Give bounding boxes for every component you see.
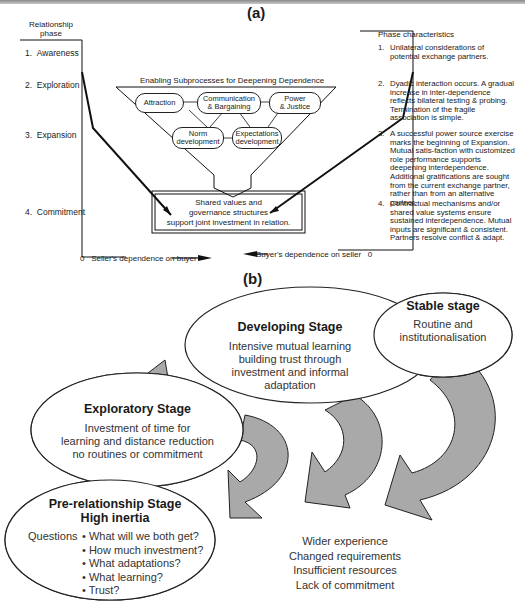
question-text: What adaptations? xyxy=(89,557,181,569)
stage-body: Intensive mutual learning building trust… xyxy=(195,340,385,392)
exit-reason: Lack of commitment xyxy=(280,578,410,593)
characteristic-num: 4. xyxy=(378,200,385,209)
question-item: • What learning? xyxy=(82,571,203,585)
stage-body-line: building trust through xyxy=(195,353,385,366)
axis-zero: 0 xyxy=(368,250,372,259)
right-header: Phase characteristics xyxy=(378,30,454,39)
stage-title: Developing Stage xyxy=(195,320,385,334)
characteristic-num: 1. xyxy=(378,44,385,53)
stage-title: Stable stage xyxy=(376,299,510,313)
question-item: • Trust? xyxy=(82,584,203,598)
shared-values-line: governance structures xyxy=(155,208,302,218)
panel-b-label: (b) xyxy=(243,270,262,287)
exit-reason: Wider experience xyxy=(280,534,410,549)
stage-title: Pre-relationship Stage xyxy=(40,497,190,511)
subprocess-power: Power& Justice xyxy=(269,92,321,114)
stage-body-line: investment and informal xyxy=(195,366,385,379)
subprocess-label: & Bargaining xyxy=(208,103,251,111)
characteristic-1: 1.Unilateral considerations of potential… xyxy=(390,44,515,61)
question-item: • What will we both get? xyxy=(82,530,203,544)
stage-body-line: Investment of time for xyxy=(50,422,225,435)
subprocess-label: & Justice xyxy=(280,103,310,111)
phase-2: 2. Exploration xyxy=(25,80,79,90)
subprocess-label: development xyxy=(177,138,220,146)
question-text: Trust? xyxy=(89,584,120,596)
subprocesses-title: Enabling Subprocesses for Deepening Depe… xyxy=(140,76,324,85)
exit-reason: Insufficient resources xyxy=(280,563,410,578)
axis-zero: 0 xyxy=(80,254,84,263)
exit-reason: Changed requirements xyxy=(280,549,410,564)
phase-num: 2. xyxy=(25,80,32,90)
characteristic-text: A successful power source exercise marks… xyxy=(390,129,515,207)
x-axis-left: 0 Seller's dependence on buyer xyxy=(80,254,197,263)
subprocess-label: Attraction xyxy=(144,99,176,107)
question-item: • What adaptations? xyxy=(82,557,203,571)
stage-body-line: learning and distance reduction xyxy=(50,435,225,448)
axis-label: Buyer's dependence on seller xyxy=(256,250,361,259)
phase-3: 3. Expansion xyxy=(25,130,77,140)
stage-body: Routine and institutionalisation xyxy=(376,318,510,344)
question-text: What will we both get? xyxy=(89,530,199,542)
phase-num: 4. xyxy=(25,207,32,217)
left-header: Relationship phase xyxy=(26,20,76,38)
exit-reasons: Wider experience Changed requirements In… xyxy=(280,534,410,592)
shared-values-line: support joint investment in relation. xyxy=(155,218,302,228)
shared-values-text: Shared values and governance structures … xyxy=(155,198,302,228)
phase-name: Expansion xyxy=(37,130,77,140)
subprocess-communication: Communication& Bargaining xyxy=(197,92,261,114)
axis-label: Seller's dependence on buyer xyxy=(91,254,197,263)
panel-a-label: (a) xyxy=(247,4,265,21)
phase-num: 3. xyxy=(25,130,32,140)
x-axis-right: Buyer's dependence on seller 0 xyxy=(256,250,372,259)
subprocess-expectations: Expectationsdevelopment xyxy=(232,127,282,149)
question-text: What learning? xyxy=(89,571,163,583)
characteristic-2: 2.Dyadic interaction occurs. A gradual i… xyxy=(390,80,515,123)
exploratory-stage: Exploratory Stage Investment of time for… xyxy=(50,402,225,461)
stage-body-line: no routines or commitment xyxy=(50,448,225,461)
stage-body-line: institutionalisation xyxy=(376,331,510,344)
shared-values-line: Shared values and xyxy=(155,198,302,208)
left-header-line-2: phase xyxy=(26,29,76,38)
phase-name: Commitment xyxy=(37,207,85,217)
stage-body: Investment of time for learning and dist… xyxy=(50,422,225,461)
characteristic-num: 3. xyxy=(378,130,385,139)
stable-stage: Stable stage Routine and institutionalis… xyxy=(376,299,510,344)
characteristic-num: 2. xyxy=(378,80,385,89)
return-arrow-developing xyxy=(305,395,382,508)
stage-title: Exploratory Stage xyxy=(50,402,225,416)
characteristic-text: Contractual mechanisms and/or shared val… xyxy=(390,199,511,242)
characteristic-text: Unilateral considerations of potential e… xyxy=(390,43,488,61)
phase-1: 1. Awareness xyxy=(25,48,79,58)
characteristic-text: Dyadic interaction occurs. A gradual inc… xyxy=(390,79,514,122)
question-text: How much investment? xyxy=(89,544,203,556)
stage-body-line: Intensive mutual learning xyxy=(195,340,385,353)
characteristic-4: 4.Contractual mechanisms and/or shared v… xyxy=(390,200,515,243)
subprocess-attraction: Attraction xyxy=(135,93,184,113)
stage-body-line: adaptation xyxy=(195,379,385,392)
pre-relationship-stage: Pre-relationship Stage High inertia xyxy=(40,497,190,525)
characteristic-3: 3.A successful power source exercise mar… xyxy=(390,130,515,207)
phase-name: Awareness xyxy=(37,48,79,58)
question-item: • How much investment? xyxy=(82,544,203,558)
stage-body-line: Routine and xyxy=(376,318,510,331)
phase-num: 1. xyxy=(25,48,32,58)
subprocess-label: development xyxy=(236,138,279,146)
questions-label: Questions xyxy=(28,530,78,544)
developing-stage: Developing Stage Intensive mutual learni… xyxy=(195,320,385,392)
subprocess-norm: Normdevelopment xyxy=(172,127,224,149)
questions-list: • What will we both get? • How much inve… xyxy=(82,530,203,598)
stage-subtitle: High inertia xyxy=(40,511,190,525)
left-header-line-1: Relationship xyxy=(26,20,76,29)
phase-4: 4. Commitment xyxy=(25,207,85,217)
phase-name: Exploration xyxy=(37,80,80,90)
